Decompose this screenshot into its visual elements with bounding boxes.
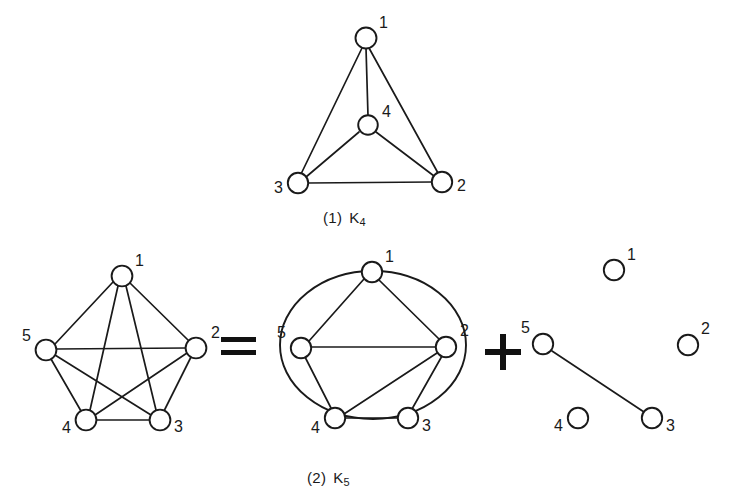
remainder-edges xyxy=(552,351,644,412)
planar-edges xyxy=(305,279,442,418)
node-3: 3 xyxy=(150,410,183,435)
caption-k5: (2)K5 xyxy=(307,469,350,488)
remainder-nodes: 1 2 3 4 5 xyxy=(521,246,710,434)
node-label-4: 4 xyxy=(382,103,391,120)
node-label-1: 1 xyxy=(379,14,388,31)
edge-2-4 xyxy=(95,353,187,415)
edge-1-5 xyxy=(309,279,364,341)
node-1: 1 xyxy=(604,246,636,280)
node-label-1: 1 xyxy=(135,252,144,269)
node-4: 4 xyxy=(62,410,96,436)
edge-3-4 xyxy=(306,132,359,177)
node-label-1: 1 xyxy=(627,246,636,263)
node-label-4: 4 xyxy=(311,419,320,436)
node-label-2: 2 xyxy=(460,322,469,339)
diagram-canvas: 1 4 3 2 xyxy=(0,0,731,502)
edge-5-3 xyxy=(552,351,644,412)
edge-5-2 xyxy=(56,348,186,349)
node-label-3: 3 xyxy=(666,417,675,434)
node-1: 1 xyxy=(356,14,389,49)
k5-edges xyxy=(51,282,191,420)
node-2: 2 xyxy=(436,322,469,357)
caption-k5-index: (2) xyxy=(307,469,326,486)
node-label-3: 3 xyxy=(174,418,183,435)
edge-1-2 xyxy=(369,48,438,173)
caption-k4-subscript: 4 xyxy=(360,216,366,228)
node-label-2: 2 xyxy=(211,324,220,341)
node-label-4: 4 xyxy=(62,419,71,436)
node-label-4: 4 xyxy=(554,417,563,434)
caption-k4: (1)K4 xyxy=(323,209,366,228)
node-5: 5 xyxy=(521,319,553,354)
node-label-3: 3 xyxy=(422,417,431,434)
equals-bar-bottom xyxy=(221,350,256,355)
node-2: 2 xyxy=(432,172,466,194)
planar-nodes: 1 2 3 4 5 xyxy=(277,248,469,436)
panel-k5-complete: 1 2 3 4 5 xyxy=(22,252,220,436)
edge-2-4 xyxy=(344,353,437,414)
node-2: 2 xyxy=(678,320,710,355)
edge-5-4 xyxy=(305,357,331,408)
plus-bar-vertical xyxy=(500,334,506,370)
node-4: 4 xyxy=(358,103,391,135)
edge-1-5 xyxy=(55,282,113,344)
node-3: 3 xyxy=(398,408,431,434)
node-1: 1 xyxy=(112,252,144,286)
node-3: 3 xyxy=(274,173,308,196)
k5-nodes: 1 2 3 4 5 xyxy=(22,252,220,436)
edge-1-2 xyxy=(379,280,440,340)
equals-operator xyxy=(221,337,256,361)
node-3: 3 xyxy=(642,408,675,434)
plus-operator xyxy=(485,334,521,370)
node-label-2: 2 xyxy=(701,320,710,337)
edge-2-3 xyxy=(412,356,442,409)
node-5: 5 xyxy=(277,324,311,358)
edge-1-2 xyxy=(130,283,189,341)
node-label-3: 3 xyxy=(274,179,283,196)
edge-2-3 xyxy=(308,182,432,183)
node-1: 1 xyxy=(362,248,394,282)
node-label-5: 5 xyxy=(22,327,31,344)
caption-k5-subscript: 5 xyxy=(344,476,350,488)
edge-5-4 xyxy=(51,359,81,411)
node-label-5: 5 xyxy=(277,324,286,341)
node-label-2: 2 xyxy=(457,177,466,194)
node-4: 4 xyxy=(311,408,345,436)
caption-k5-name: K xyxy=(333,469,343,486)
node-label-5: 5 xyxy=(521,319,530,336)
node-5: 5 xyxy=(22,327,56,360)
caption-k4-name: K xyxy=(349,209,359,226)
node-4: 4 xyxy=(554,408,588,434)
panel-k5-remainder: 1 2 3 4 5 xyxy=(521,246,710,434)
equals-bar-top xyxy=(221,337,256,342)
node-2: 2 xyxy=(186,324,220,358)
edge-5-3 xyxy=(55,355,151,415)
panel-k5-planar-part: 1 2 3 4 5 xyxy=(277,248,469,436)
edge-1-4 xyxy=(366,48,368,116)
panel-k4: 1 4 3 2 xyxy=(274,14,466,196)
node-label-1: 1 xyxy=(385,248,394,265)
edge-2-4 xyxy=(376,132,434,176)
graph-decomposition-figure: 1 4 3 2 xyxy=(0,0,731,502)
caption-k4-index: (1) xyxy=(323,209,342,226)
